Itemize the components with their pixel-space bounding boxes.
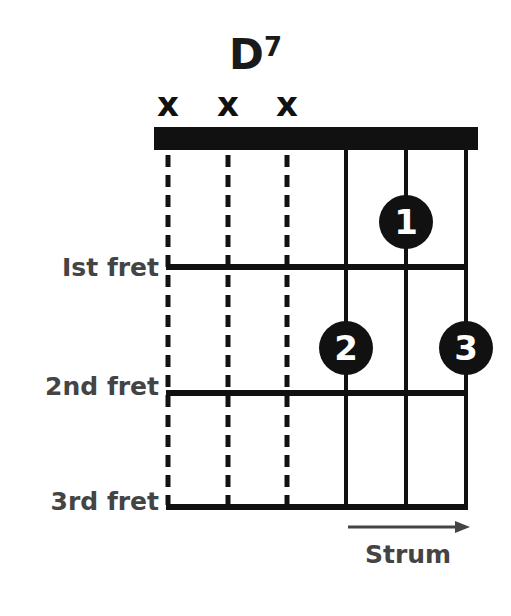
finger-dot-3: 3: [439, 321, 493, 375]
fretboard: 1 2 3: [0, 0, 511, 616]
muted-strings: [168, 155, 287, 505]
finger-dot-1: 1: [379, 195, 433, 249]
strum-label: Strum: [365, 540, 451, 569]
svg-text:2: 2: [334, 328, 358, 368]
fret-label-1: Ist fret: [62, 253, 159, 282]
frets: [166, 267, 468, 507]
svg-text:3: 3: [454, 328, 478, 368]
finger-dot-2: 2: [319, 321, 373, 375]
fret-label-2: 2nd fret: [45, 372, 159, 401]
nut: [154, 127, 478, 150]
strum-arrow-icon: [348, 521, 470, 533]
fret-label-3: 3rd fret: [51, 487, 159, 516]
svg-text:1: 1: [394, 202, 418, 242]
